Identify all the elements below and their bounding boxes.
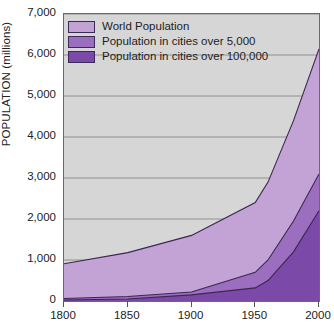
legend-item: World Population [68, 20, 268, 34]
x-tick-label: 2000 [305, 309, 331, 321]
legend-swatch [68, 21, 95, 33]
legend-swatch [68, 51, 95, 63]
x-tick-label: 1800 [50, 309, 76, 321]
legend-item: Population in cities over 100,000 [68, 50, 268, 64]
x-tick-mark [191, 301, 192, 307]
legend-item: Population in cities over 5,000 [68, 35, 268, 49]
legend-swatch [68, 36, 95, 48]
x-tick-label: 1850 [114, 309, 140, 321]
legend-label: Population in cities over 5,000 [102, 36, 255, 48]
legend-label: Population in cities over 100,000 [102, 51, 268, 63]
x-tick-mark [63, 301, 64, 307]
chart-legend: World PopulationPopulation in cities ove… [68, 18, 268, 64]
population-area-chart: POPULATION (millions) 01,0002,0003,0004,… [0, 0, 334, 333]
x-tick-mark [127, 301, 128, 307]
x-tick-label: 1900 [178, 309, 204, 321]
x-tick-label: 1950 [241, 309, 267, 321]
legend-label: World Population [102, 21, 189, 33]
x-tick-mark [254, 301, 255, 307]
x-tick-mark [318, 301, 319, 307]
